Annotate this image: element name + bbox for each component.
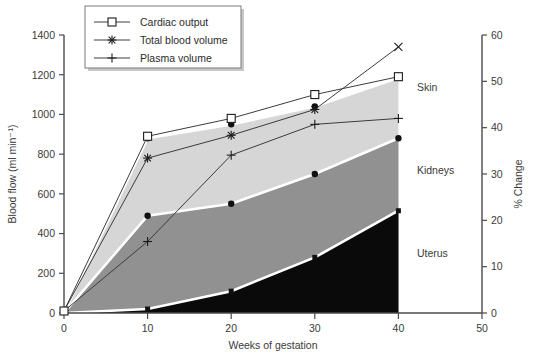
marker-total-blood-volume	[394, 43, 402, 51]
blood-flow-gestation-chart: 0200400600800100012001400010203040506001…	[0, 0, 533, 362]
y2-tick-label: 60	[491, 29, 503, 41]
legend-item-plasma-volume[interactable]: Plasma volume	[94, 52, 212, 64]
y-tick-label: 600	[37, 188, 55, 200]
legend[interactable]: Cardiac outputTotal blood volumePlasma v…	[85, 6, 244, 71]
y2-tick-label: 0	[491, 307, 497, 319]
y-tick-label: 1200	[32, 69, 56, 81]
marker-total-blood-volume	[310, 105, 319, 114]
boundary-marker-kidneys	[312, 171, 318, 177]
region-label-kidneys: Kidneys	[417, 164, 454, 176]
marker-cardiac-output	[311, 91, 319, 99]
x-tick-label: 40	[393, 322, 405, 334]
x-tick-label: 30	[309, 322, 321, 334]
marker-total-blood-volume	[143, 154, 152, 163]
boundary-marker-uterus	[145, 307, 150, 312]
legend-item-cardiac-output[interactable]: Cardiac output	[94, 16, 208, 28]
boundary-marker-kidneys	[228, 201, 234, 207]
region-label-uterus: Uterus	[417, 247, 448, 259]
y-tick-label: 800	[37, 148, 55, 160]
marker-origin	[60, 307, 68, 315]
boundary-marker-kidneys	[395, 135, 401, 141]
y2-tick-label: 20	[491, 214, 503, 226]
y-tick-label: 1000	[32, 108, 56, 120]
y-axis-title: Blood flow (ml min⁻¹)	[6, 125, 18, 224]
marker-cardiac-output	[394, 73, 402, 81]
legend-label: Total blood volume	[140, 34, 228, 46]
y2-tick-label: 50	[491, 75, 503, 87]
region-labels-group: SkinKidneysUterus	[417, 81, 454, 260]
boundary-marker-kidneys	[144, 213, 150, 219]
y-tick-label: 200	[37, 267, 55, 279]
chart-container: 0200400600800100012001400010203040506001…	[0, 0, 533, 362]
region-label-skin: Skin	[417, 81, 438, 93]
marker-total-blood-volume	[227, 131, 236, 140]
marker-cardiac-output	[144, 132, 152, 140]
boundary-marker-uterus	[396, 208, 401, 213]
legend-marker-asterisk	[108, 36, 117, 45]
y-tick-label: 1400	[32, 29, 56, 41]
x-axis-title: Weeks of gestation	[228, 339, 317, 351]
stacked-areas-group	[64, 78, 398, 313]
y-tick-label: 0	[49, 307, 55, 319]
y2-tick-label: 10	[491, 260, 503, 272]
y2-tick-label: 30	[491, 168, 503, 180]
marker-cardiac-output	[227, 114, 235, 122]
legend-marker-square	[108, 18, 116, 26]
x-tick-label: 20	[225, 322, 237, 334]
x-tick-label: 0	[61, 322, 67, 334]
x-tick-label: 50	[476, 322, 488, 334]
boundary-marker-uterus	[229, 289, 234, 294]
y2-tick-label: 40	[491, 121, 503, 133]
x-tick-label: 10	[142, 322, 154, 334]
boundary-marker-uterus	[312, 255, 317, 260]
y2-axis-title: % Change	[512, 159, 524, 208]
y-tick-label: 400	[37, 227, 55, 239]
legend-label: Cardiac output	[140, 16, 208, 28]
legend-label: Plasma volume	[140, 52, 212, 64]
